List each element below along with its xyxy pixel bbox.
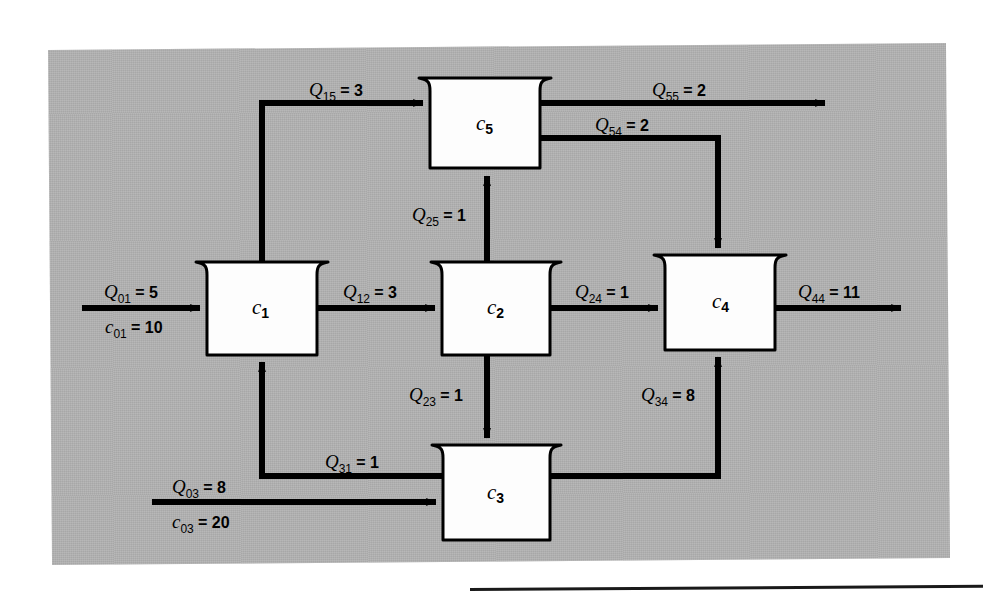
reactor-label-c3: c3 [487, 482, 504, 505]
flow-label-Q31: Q31 = 1 [325, 452, 379, 475]
flow-label-Q44: Q44 = 11 [798, 282, 860, 305]
figure-page: c1 c2 c3 c4 c5 Q01 = 5 c01 = 10 Q03 = 8 … [0, 0, 983, 600]
flow-arrow-Q54 [540, 138, 718, 248]
flow-label-Q03: Q03 = 8 [172, 477, 226, 500]
flow-label-Q34: Q34 = 8 [641, 385, 695, 408]
flow-label-Q24: Q24 = 1 [575, 282, 629, 305]
flow-label-c01: c01 = 10 [105, 317, 163, 340]
reactor-label-c1: c1 [252, 297, 269, 320]
reactor-label-c5: c5 [476, 113, 493, 136]
flow-label-Q25: Q25 = 1 [412, 205, 466, 228]
flow-label-Q54: Q54 = 2 [595, 115, 649, 138]
flow-label-Q15: Q15 = 3 [309, 80, 363, 103]
flow-label-c03: c03 = 20 [172, 512, 230, 535]
flow-arrow-Q15 [262, 103, 423, 262]
flow-arrow-Q34 [550, 357, 718, 476]
reactor-label-c2: c2 [487, 297, 504, 320]
flow-label-Q01: Q01 = 5 [104, 282, 158, 305]
flow-label-Q12: Q12 = 3 [343, 282, 397, 305]
flow-label-Q55: Q55 = 2 [652, 80, 706, 103]
reactor-label-c4: c4 [712, 291, 729, 314]
flow-label-Q23: Q23 = 1 [409, 385, 463, 408]
